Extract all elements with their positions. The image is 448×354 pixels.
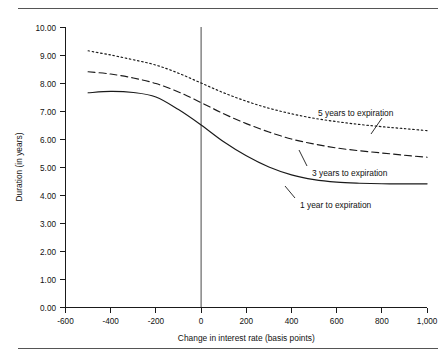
leader-line-1-year xyxy=(285,186,295,198)
figure-container: 10.00 9.00 8.00 7.00 6.00 5.00 4.00 3.00… xyxy=(0,0,448,354)
y-tick-label: 1.00 xyxy=(40,276,56,285)
y-tick-label: 7.00 xyxy=(40,108,56,117)
y-axis-title: Duration (in years) xyxy=(14,132,24,201)
x-tick-label: 1,000 xyxy=(417,317,438,326)
x-tick-label: 600 xyxy=(330,317,344,326)
y-axis-ticks: 10.00 9.00 8.00 7.00 6.00 5.00 4.00 3.00… xyxy=(36,24,66,313)
x-axis-ticks: -600 -400 -200 0 200 400 600 800 1,000 xyxy=(57,308,437,327)
series-line-5-years xyxy=(88,51,427,131)
x-tick-label: 200 xyxy=(239,317,253,326)
annotation-3-years-label: 3 years to expiration xyxy=(312,168,388,178)
y-tick-label: 6.00 xyxy=(40,136,56,145)
y-tick-label: 10.00 xyxy=(36,24,57,33)
y-tick-label: 3.00 xyxy=(40,220,56,229)
y-tick-label: 4.00 xyxy=(40,192,56,201)
x-tick-label: 0 xyxy=(199,317,204,326)
y-tick-label: 8.00 xyxy=(40,80,56,89)
x-tick-label: -200 xyxy=(148,317,165,326)
y-tick-label: 0.00 xyxy=(40,304,56,313)
y-tick-label: 5.00 xyxy=(40,164,56,173)
x-tick-label: 800 xyxy=(375,317,389,326)
x-axis-title: Change in interest rate (basis points) xyxy=(178,333,315,343)
leader-line-3-years xyxy=(299,150,307,166)
annotation-leaders xyxy=(285,118,382,198)
x-tick-label: 400 xyxy=(285,317,299,326)
y-tick-label: 9.00 xyxy=(40,52,56,61)
annotation-1-year-label: 1 year to expiration xyxy=(300,200,372,210)
duration-vs-rate-chart: 10.00 9.00 8.00 7.00 6.00 5.00 4.00 3.00… xyxy=(0,0,448,354)
x-tick-label: -400 xyxy=(103,317,120,326)
annotation-5-years-label: 5 years to expiration xyxy=(318,108,394,118)
x-tick-label: -600 xyxy=(57,317,74,326)
y-tick-label: 2.00 xyxy=(40,248,56,257)
